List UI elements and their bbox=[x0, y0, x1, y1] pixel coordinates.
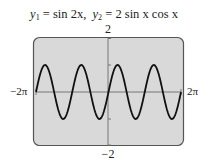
graph-screen bbox=[0, 0, 208, 164]
